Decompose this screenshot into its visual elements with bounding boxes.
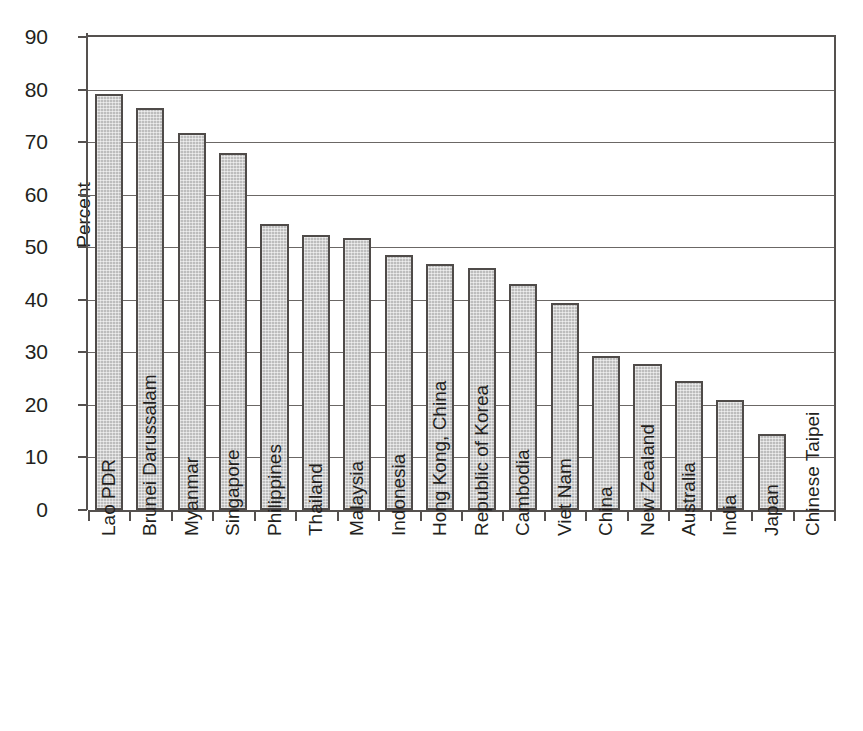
y-axis-tick-label: 60 [0, 184, 48, 205]
x-axis-tick [337, 511, 339, 521]
x-axis-tick-label: Singapore [222, 308, 244, 538]
y-axis-tick [78, 246, 87, 248]
x-axis-tick-label: Chinese Taipei [802, 308, 824, 538]
x-axis-tick [793, 511, 795, 521]
x-axis-tick [585, 511, 587, 521]
x-axis-tick [834, 511, 836, 521]
y-axis-tick-label: 0 [0, 499, 48, 520]
x-axis-tick [212, 511, 214, 521]
x-axis-tick-label: Brunei Darussalam [139, 308, 161, 538]
x-axis-tick-label: China [595, 308, 617, 538]
y-axis-tick [78, 404, 87, 406]
y-axis-tick [78, 299, 87, 301]
x-axis-tick [129, 511, 131, 521]
x-axis-tick-label: Myanmar [181, 308, 203, 538]
y-axis-tick [78, 194, 87, 196]
y-axis-tick-label: 30 [0, 341, 48, 362]
x-axis-tick-label: Cambodia [512, 308, 534, 538]
x-axis-tick-label: Thailand [305, 308, 327, 538]
bar-chart-figure: Percent 0102030405060708090 Lao PDRBrune… [0, 0, 863, 731]
y-axis-tick-label: 10 [0, 446, 48, 467]
y-axis-tick [78, 141, 87, 143]
y-axis-tick [78, 89, 87, 91]
y-axis-tick-label: 90 [0, 26, 48, 47]
x-axis-tick-label: Indonesia [388, 308, 410, 538]
x-axis-tick-label: Hong Kong, China [429, 308, 451, 538]
x-axis-tick-label: Viet Nam [554, 308, 576, 538]
x-axis-tick [710, 511, 712, 521]
scan-artifact-strip [0, 0, 863, 14]
x-axis-tick-label: Malaysia [346, 308, 368, 538]
x-axis-tick-label: Philippines [264, 308, 286, 538]
x-axis-tick-label: Lao PDR [98, 308, 120, 538]
y-axis-tick [78, 509, 87, 511]
y-axis-tick-label: 80 [0, 79, 48, 100]
x-axis-tick [502, 511, 504, 521]
x-axis-tick [88, 511, 90, 521]
y-axis-tick [78, 36, 87, 38]
x-axis-tick [461, 511, 463, 521]
x-axis-tick [378, 511, 380, 521]
y-axis-tick-label: 50 [0, 236, 48, 257]
y-axis-tick [78, 351, 87, 353]
y-axis-tick-label: 40 [0, 289, 48, 310]
x-axis-tick [544, 511, 546, 521]
x-axis-tick [668, 511, 670, 521]
y-axis-tick-label: 70 [0, 131, 48, 152]
x-axis-tick [420, 511, 422, 521]
x-axis-tick-label: Republic of Korea [471, 308, 493, 538]
x-axis-tick-label: New Zealand [637, 308, 659, 538]
gridline [88, 90, 834, 91]
x-axis-tick-label: India [719, 308, 741, 538]
x-axis-tick [627, 511, 629, 521]
x-axis-tick-label: Australia [678, 308, 700, 538]
x-axis-tick [751, 511, 753, 521]
x-axis-tick [171, 511, 173, 521]
y-axis-tick-label: 20 [0, 394, 48, 415]
x-axis-tick [254, 511, 256, 521]
y-axis-tick [78, 456, 87, 458]
x-axis-tick [295, 511, 297, 521]
x-axis-tick-label: Japan [761, 308, 783, 538]
